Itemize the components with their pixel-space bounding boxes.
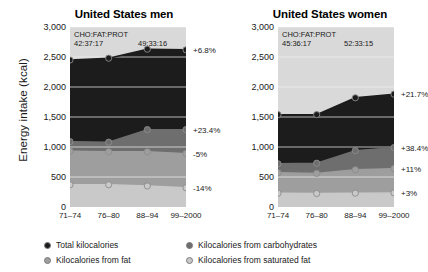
y-axis-tick-men: 2,000 <box>43 82 66 92</box>
legend-swatch-total-icon <box>44 242 51 249</box>
area-band <box>278 193 394 207</box>
panel-title-women: United States women <box>254 8 406 20</box>
data-point-marker <box>278 190 281 196</box>
data-point-marker <box>106 55 112 61</box>
pct-change-fat-women: +11% <box>401 164 421 173</box>
pct-change-carbs-men: +23.4% <box>193 125 220 134</box>
y-axis-tick-women: 2,500 <box>251 52 274 62</box>
legend-label-carbs: Kilocalories from carbohydrates <box>198 240 317 250</box>
data-point-marker <box>278 170 281 176</box>
y-axis-title: Energy intake (kcal) <box>17 25 29 195</box>
x-axis-tick-women: 99–2000 <box>378 211 409 220</box>
legend-label-total: Total kilocalories <box>56 240 118 250</box>
y-axis-tick-women: 3,000 <box>251 22 274 32</box>
legend-swatch-satfat-icon <box>186 257 193 264</box>
data-point-marker <box>352 95 358 101</box>
data-point-marker <box>144 127 150 133</box>
data-point-marker <box>352 148 358 154</box>
series-canvas-men <box>70 27 186 207</box>
data-point-marker <box>278 112 281 118</box>
data-point-marker <box>391 145 394 151</box>
data-point-marker <box>70 139 73 145</box>
x-axis-tick-men: 99–2000 <box>170 211 201 220</box>
x-axis-tick-women: 76–80 <box>306 211 328 220</box>
y-axis-tick-women: 2,000 <box>251 82 274 92</box>
ratio-last-women: 52:33:15 <box>344 39 373 48</box>
area-band <box>70 185 186 207</box>
legend-swatch-carbs-icon <box>186 242 193 249</box>
legend-item-total-kilocalories: Total kilocalories <box>44 240 118 250</box>
data-point-marker <box>314 112 320 118</box>
data-point-marker <box>70 182 73 188</box>
y-axis-tick-women: 500 <box>259 172 274 182</box>
panel-united-states-men: United States men CHO:FAT:PROT 42:37:17 … <box>30 0 220 232</box>
data-point-marker <box>70 148 73 154</box>
data-point-marker <box>314 190 320 196</box>
legend-item-carbohydrates: Kilocalories from carbohydrates <box>186 240 317 250</box>
data-point-marker <box>106 139 112 145</box>
ratio-last-men: 49:33:16 <box>138 39 167 48</box>
pct-change-fat-men: -5% <box>193 149 207 158</box>
x-axis-tick-women: 88–94 <box>344 211 366 220</box>
data-point-marker <box>144 183 150 189</box>
panel-united-states-women: United States women CHO:FAT:PROT 45:36:1… <box>238 0 428 232</box>
x-axis-tick-women: 71–74 <box>267 211 289 220</box>
data-point-marker <box>106 182 112 188</box>
ratio-header-men: CHO:FAT:PROT <box>74 30 128 39</box>
pct-change-satfat-men: -14% <box>193 183 212 192</box>
data-point-marker <box>144 149 150 155</box>
pct-change-satfat-women: +3% <box>401 188 417 197</box>
y-axis-tick-men: 1,500 <box>43 112 66 122</box>
legend-swatch-fat-icon <box>44 257 51 264</box>
data-point-marker <box>314 160 320 166</box>
y-axis-tick-men: 500 <box>51 172 66 182</box>
data-point-marker <box>183 127 186 133</box>
ratio-header-women: CHO:FAT:PROT <box>282 30 336 39</box>
chart-legend: Total kilocalories Kilocalories from car… <box>0 238 424 272</box>
x-axis-tick-men: 76–80 <box>98 211 120 220</box>
pct-change-total-women: +21.7% <box>401 90 428 99</box>
x-axis-tick-men: 88–94 <box>136 211 158 220</box>
x-axis-tick-men: 71–74 <box>59 211 81 220</box>
data-point-marker <box>391 190 394 196</box>
data-point-marker <box>183 185 186 191</box>
panel-title-men: United States men <box>48 8 200 20</box>
data-point-marker <box>278 161 281 167</box>
series-line <box>278 193 394 194</box>
plot-area-men: CHO:FAT:PROT 42:37:17 49:33:16 3,0002,50… <box>70 27 186 207</box>
legend-item-fat: Kilocalories from fat <box>44 255 131 265</box>
pct-change-total-men: +6.8% <box>193 45 216 54</box>
y-axis-tick-men: 3,000 <box>43 22 66 32</box>
ratio-first-men: 42:37:17 <box>74 39 103 48</box>
legend-item-saturated-fat: Kilocalories from saturated fat <box>186 255 310 265</box>
ratio-first-women: 45:36:17 <box>282 39 311 48</box>
data-point-marker <box>183 151 186 157</box>
pct-change-carbs-women: +38.4% <box>401 143 428 152</box>
series-canvas-women <box>278 27 394 207</box>
y-axis-tick-women: 1,000 <box>251 142 274 152</box>
plot-area-women: CHO:FAT:PROT 45:36:17 52:33:15 3,0002,50… <box>278 27 394 207</box>
y-axis-tick-men: 1,000 <box>43 142 66 152</box>
data-point-marker <box>391 91 394 97</box>
y-axis-tick-men: 2,500 <box>43 52 66 62</box>
data-point-marker <box>183 47 186 53</box>
data-point-marker <box>391 166 394 172</box>
data-point-marker <box>106 149 112 155</box>
legend-label-satfat: Kilocalories from saturated fat <box>198 255 310 265</box>
data-point-marker <box>314 170 320 176</box>
data-point-marker <box>70 57 73 63</box>
legend-label-fat: Kilocalories from fat <box>56 255 131 265</box>
data-point-marker <box>352 167 358 173</box>
y-axis-tick-women: 1,500 <box>251 112 274 122</box>
data-point-marker <box>352 190 358 196</box>
